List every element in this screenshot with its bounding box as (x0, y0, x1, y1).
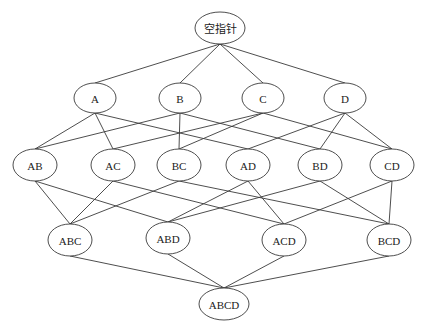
node-root: 空指针 (195, 12, 245, 44)
node-abd: ABD (146, 222, 190, 254)
node-label: A (91, 93, 99, 105)
edge-d-bd (320, 113, 345, 149)
node-bd: BD (298, 149, 342, 181)
edge-bc-bcd (179, 181, 389, 224)
edge-root-a (95, 44, 220, 83)
edge-abc-abcd (70, 256, 224, 288)
node-label: ACD (272, 235, 295, 247)
edge-d-ad (248, 113, 345, 149)
node-ac: AC (91, 149, 135, 181)
node-layer: 空指针ABCDABACBCADBDCDABCABDACDBCDABCD (13, 12, 414, 320)
edge-root-d (220, 44, 345, 83)
edge-b-ab (35, 113, 180, 149)
edge-a-ab (35, 113, 95, 149)
edge-c-ac (113, 113, 263, 149)
node-cd: CD (370, 149, 414, 181)
node-c: C (242, 83, 284, 113)
node-label: BCD (378, 235, 401, 247)
edge-d-cd (345, 113, 392, 149)
node-d: D (324, 83, 366, 113)
node-ab: AB (13, 149, 57, 181)
lattice-diagram: 空指针ABCDABACBCADBDCDABCABDACDBCDABCD (0, 0, 423, 331)
edge-bd-abd (168, 181, 320, 222)
node-label: ABCD (209, 299, 240, 311)
edge-cd-acd (284, 181, 392, 224)
edge-ab-abd (35, 181, 168, 222)
edge-bcd-abcd (224, 256, 389, 288)
edge-ab-abc (35, 181, 70, 224)
node-label: ABC (59, 235, 82, 247)
node-bc: BC (157, 149, 201, 181)
node-label: BC (172, 160, 187, 172)
node-label: D (341, 93, 349, 105)
node-a: A (74, 83, 116, 113)
node-label: 空指针 (204, 22, 237, 35)
edge-b-bc (179, 113, 180, 149)
node-label: AB (27, 160, 42, 172)
node-bcd: BCD (367, 224, 411, 256)
edge-ad-acd (248, 181, 284, 224)
node-b: B (159, 83, 201, 113)
node-abcd: ABCD (199, 288, 249, 320)
edge-bd-bcd (320, 181, 389, 224)
edge-root-c (220, 44, 263, 83)
node-ad: AD (226, 149, 270, 181)
edge-acd-abcd (224, 256, 284, 288)
edge-c-cd (263, 113, 392, 149)
node-label: AC (105, 160, 120, 172)
node-label: ABD (156, 233, 179, 245)
edge-cd-bcd (389, 181, 392, 224)
node-label: B (176, 93, 183, 105)
node-label: C (259, 93, 266, 105)
edge-ac-abc (70, 181, 113, 224)
node-abc: ABC (48, 224, 92, 256)
edge-bc-abc (70, 181, 179, 224)
edge-abd-abcd (168, 254, 224, 288)
node-label: BD (312, 160, 327, 172)
edge-a-ac (95, 113, 113, 149)
node-label: CD (384, 160, 399, 172)
node-acd: ACD (262, 224, 306, 256)
edge-a-ad (95, 113, 248, 149)
node-label: AD (240, 160, 256, 172)
edge-ac-acd (113, 181, 284, 224)
